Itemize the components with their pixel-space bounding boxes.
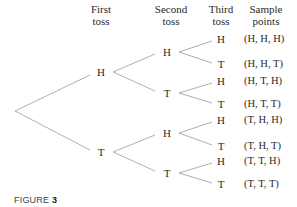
node-second-toss: H [163,127,171,139]
header-sample-points: Sample points [236,3,296,27]
caption-number: 3 [52,195,57,205]
node-second-toss: T [164,87,171,99]
header-first-toss: First toss [71,3,131,27]
header-line: First [71,3,131,15]
node-third-toss: H [217,33,225,45]
figure-caption: FIGURE 3 [14,195,57,205]
sample-point: (T, H, H) [244,114,282,126]
node-third-toss: H [217,114,225,126]
sample-point: (T, T, H) [244,155,280,167]
sample-point: (H, T, T) [244,98,281,110]
caption-prefix: FIGURE [14,195,52,205]
node-first-toss-t: T [98,146,105,158]
node-second-toss: T [164,167,171,179]
sample-point: (H, H, H) [244,33,284,45]
sample-point: (H, T, H) [244,75,282,87]
header-line: points [236,15,296,27]
sample-point: (H, H, T) [244,58,283,70]
header-line: toss [71,15,131,27]
node-third-toss: T [218,140,225,152]
sample-point: (T, H, T) [244,140,281,152]
node-third-toss: T [218,98,225,110]
header-line: Sample [236,3,296,15]
node-second-toss: H [163,46,171,58]
node-first-toss-h: H [97,66,105,78]
sample-point: (T, T, T) [244,178,279,190]
node-third-toss: H [217,155,225,167]
node-third-toss: H [217,75,225,87]
node-third-toss: T [218,178,225,190]
node-third-toss: T [218,58,225,70]
